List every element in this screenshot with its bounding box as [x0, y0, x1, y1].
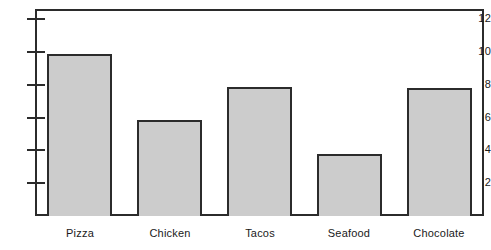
x-axis-label-pizza: Pizza [35, 227, 125, 239]
y-axis-tick [27, 51, 45, 53]
y-axis-tick [27, 18, 45, 20]
y-axis-tick [27, 117, 45, 119]
bar-pizza[interactable] [47, 54, 112, 216]
y-axis-tick [27, 149, 45, 151]
bar-chocolate[interactable] [407, 88, 472, 216]
y-axis-tick-label: 12 [467, 13, 491, 24]
y-axis-tick-label: 10 [467, 46, 491, 57]
x-axis-label-tacos: Tacos [215, 227, 305, 239]
bar-tacos[interactable] [227, 87, 292, 216]
x-axis-label-seafood: Seafood [304, 227, 394, 239]
x-axis-label-chocolate: Chocolate [394, 227, 484, 239]
x-axis-label-chicken: Chicken [125, 227, 215, 239]
bar-chart: 24681012 PizzaChickenTacosSeafoodChocola… [0, 0, 491, 250]
bar-seafood[interactable] [317, 154, 382, 216]
y-axis-tick [27, 84, 45, 86]
bar-chicken[interactable] [137, 120, 202, 216]
y-axis-tick [27, 182, 45, 184]
